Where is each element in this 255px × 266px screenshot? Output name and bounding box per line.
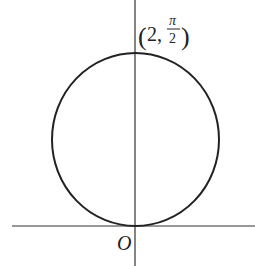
polar-diagram: ( 2, π 2 ) O bbox=[0, 0, 255, 266]
paren-close: ) bbox=[181, 22, 190, 51]
theta-numerator: π bbox=[169, 13, 177, 28]
origin-label: O bbox=[117, 232, 131, 254]
point-label: ( 2, π 2 ) bbox=[138, 13, 190, 51]
theta-denominator: 2 bbox=[169, 31, 176, 46]
paren-open: ( bbox=[138, 22, 147, 51]
point-r: 2, bbox=[147, 23, 162, 45]
